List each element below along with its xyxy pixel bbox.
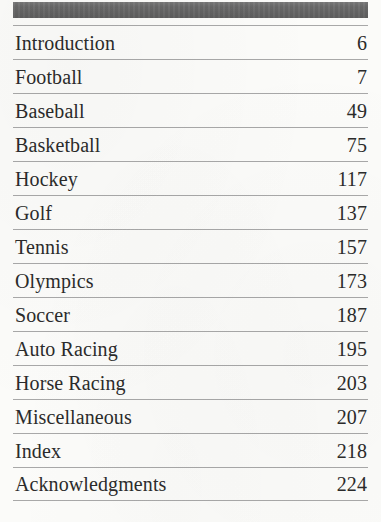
toc-entry[interactable]: Index 218 bbox=[13, 433, 368, 467]
toc-entry[interactable]: Acknowledgments 224 bbox=[13, 467, 368, 501]
toc-entry-title: Baseball bbox=[13, 101, 85, 121]
toc-entry[interactable]: Introduction 6 bbox=[13, 25, 368, 59]
toc-entry-title: Soccer bbox=[13, 305, 70, 325]
toc-entry-page-number: 49 bbox=[347, 101, 368, 121]
toc-entry-page-number: 187 bbox=[337, 305, 368, 325]
toc-entry[interactable]: Miscellaneous 207 bbox=[13, 399, 368, 433]
toc-entry[interactable]: Horse Racing 203 bbox=[13, 365, 368, 399]
toc-entry-page-number: 224 bbox=[337, 474, 368, 494]
toc-entry-title: Football bbox=[13, 67, 82, 87]
toc-entry-title: Tennis bbox=[13, 237, 69, 257]
toc-entry[interactable]: Soccer 187 bbox=[13, 297, 368, 331]
toc-entry[interactable]: Hockey 117 bbox=[13, 161, 368, 195]
toc-entry[interactable]: Basketball 75 bbox=[13, 127, 368, 161]
toc-entry-page-number: 173 bbox=[337, 271, 368, 291]
toc-entry[interactable]: Tennis 157 bbox=[13, 229, 368, 263]
header-band bbox=[13, 2, 368, 18]
toc-entry-title: Auto Racing bbox=[13, 339, 118, 359]
toc-entry-title: Olympics bbox=[13, 271, 94, 291]
toc-entry-title: Acknowledgments bbox=[13, 474, 166, 494]
toc-entry-title: Basketball bbox=[13, 135, 100, 155]
toc-entry[interactable]: Baseball 49 bbox=[13, 93, 368, 127]
toc-entry-page-number: 137 bbox=[337, 203, 368, 223]
toc-entry-page-number: 7 bbox=[357, 67, 368, 87]
toc-entry-title: Hockey bbox=[13, 169, 78, 189]
toc-entry[interactable]: Golf 137 bbox=[13, 195, 368, 229]
toc-entry-title: Introduction bbox=[13, 33, 115, 53]
toc-entry[interactable]: Football 7 bbox=[13, 59, 368, 93]
toc-entry-page-number: 207 bbox=[337, 407, 368, 427]
toc-entry-page-number: 6 bbox=[357, 33, 368, 53]
toc-entry-page-number: 117 bbox=[337, 169, 368, 189]
toc-entry-page-number: 75 bbox=[347, 135, 368, 155]
toc-entry-page-number: 203 bbox=[337, 373, 368, 393]
toc-entry-title: Golf bbox=[13, 203, 52, 223]
toc-entry-title: Index bbox=[13, 441, 61, 461]
toc-entry-title: Horse Racing bbox=[13, 373, 126, 393]
toc-entry-title: Miscellaneous bbox=[13, 407, 132, 427]
toc-entry-page-number: 195 bbox=[337, 339, 368, 359]
toc-entry[interactable]: Olympics 173 bbox=[13, 263, 368, 297]
toc-entry-page-number: 218 bbox=[337, 441, 368, 461]
table-of-contents-list: Introduction 6 Football 7 Baseball 49 Ba… bbox=[13, 25, 368, 501]
toc-page: Introduction 6 Football 7 Baseball 49 Ba… bbox=[13, 0, 368, 522]
toc-entry[interactable]: Auto Racing 195 bbox=[13, 331, 368, 365]
toc-entry-page-number: 157 bbox=[337, 237, 368, 257]
